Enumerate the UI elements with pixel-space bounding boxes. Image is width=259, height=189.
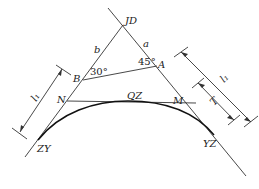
curve-diagram: JD a b A B 30° 45° N QZ M ZY YZ l₁ l₁ T (0, 0, 259, 189)
label-N: N (56, 94, 67, 105)
label-b: b (94, 44, 100, 55)
label-right-l1: l₁ (218, 72, 231, 85)
label-B: B (72, 73, 80, 84)
angle-B: 30° (90, 66, 108, 77)
label-M: M (172, 95, 184, 106)
angle-A: 45° (138, 56, 156, 67)
right-l1-dimension (174, 47, 258, 127)
circular-curve (38, 101, 214, 140)
label-QZ: QZ (127, 90, 143, 101)
label-a: a (143, 38, 149, 49)
label-T: T (208, 94, 221, 107)
label-left-l1: l₁ (29, 91, 42, 103)
label-JD: JD (123, 15, 137, 26)
label-A: A (157, 59, 165, 70)
label-YZ: YZ (203, 138, 218, 149)
label-ZY: ZY (36, 143, 52, 154)
